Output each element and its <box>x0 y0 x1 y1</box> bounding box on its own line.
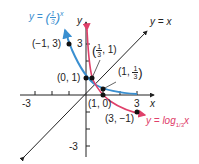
exp-curve <box>65 30 137 94</box>
y-tick-neg3: -3 <box>69 142 78 152</box>
point-label-third-1: (13, 1) <box>92 43 117 58</box>
x-axis-label: x <box>150 99 155 109</box>
point-label-3-neg1: (3, −1) <box>105 114 134 124</box>
exp-curve-label: y = (13)x <box>29 10 64 25</box>
point-label-neg1-3: (−1, 3) <box>32 39 61 49</box>
point-label-0-1: (0, 1) <box>57 73 80 83</box>
point-label-1-third: (1, 13) <box>118 65 143 80</box>
x-tick-3: 3 <box>134 99 140 109</box>
y-axis-label: y <box>77 16 82 26</box>
point-label-1-0: (1, 0) <box>88 99 111 109</box>
log-curve-label: y = log1/3x <box>146 116 189 128</box>
y-tick-3: 3 <box>77 39 83 49</box>
x-tick-neg3: -3 <box>22 99 31 109</box>
leader-line <box>92 60 100 78</box>
identity-line-label: y = x <box>150 17 171 27</box>
